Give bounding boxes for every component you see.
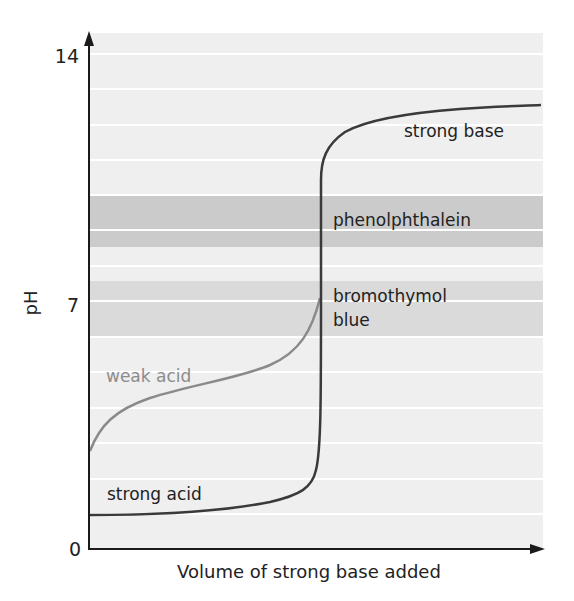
weak-acid-label: weak acid [106,366,191,386]
y-tick-0: 0 [69,538,81,560]
y-tick-7: 7 [67,294,79,316]
strong-acid-label: strong acid [107,484,202,504]
y-axis-title: pH [20,291,41,316]
phenolphthalein-label: phenolphthalein [333,210,471,230]
strong-base-label: strong base [404,121,504,141]
phenolphthalein-band [90,195,543,247]
y-tick-14: 14 [55,45,79,67]
x-axis-title: Volume of strong base added [177,561,441,582]
bromothymol-blue-label: blue [333,310,370,330]
bromothymol-label: bromothymol [333,286,447,306]
titration-chart: 14 7 0 pH Volume of strong base added st… [0,0,574,601]
